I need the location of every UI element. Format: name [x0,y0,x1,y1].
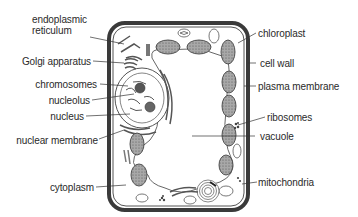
label-nuclear-membrane: nuclear membrane [16,135,98,146]
label-cell-wall: cell wall [260,58,294,69]
label-nucleus: nucleus [50,111,84,122]
nucleus [115,68,169,128]
label-mitochondria: mitochondria [258,177,314,188]
label-line-1: endoplasmic [32,14,87,25]
label-chloroplast: chloroplast [258,28,305,39]
label-ribosomes: ribosomes [267,112,312,123]
label-chromosomes: chromosomes [35,79,97,90]
label-nucleolus: nucleolus [49,95,90,106]
label-cytoplasm: cytoplasm [50,182,94,193]
label-endoplasmic-reticulum: endoplasmic reticulum [32,14,87,36]
nucleolus [135,83,145,93]
plant-cell-diagram: endoplasmic reticulum Golgi apparatus ch… [0,0,358,217]
mitochondrion [197,180,219,202]
label-plasma-membrane: plasma membrane [258,81,339,92]
label-line-2: reticulum [32,25,87,36]
label-vacuole: vacuole [260,131,294,142]
label-golgi-apparatus: Golgi apparatus [22,56,91,67]
